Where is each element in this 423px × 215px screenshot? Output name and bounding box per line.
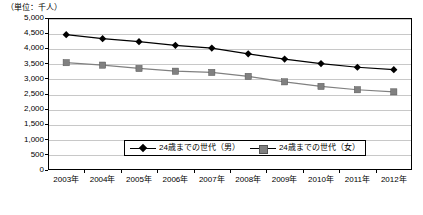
y-axis-tick-mark xyxy=(45,48,48,49)
data-point-marker xyxy=(318,83,324,89)
x-axis-tick-mark xyxy=(194,170,195,173)
unit-label: （単位：千人） xyxy=(6,3,62,13)
chart-legend: 24歳までの世代（男） 24歳までの世代（女） xyxy=(124,140,366,156)
x-axis-tick-label: 2004年 xyxy=(90,175,116,185)
x-axis-tick-mark xyxy=(339,170,340,173)
y-axis-tick-label: 500 xyxy=(0,151,44,159)
data-point-marker xyxy=(100,62,106,68)
y-axis-tick-mark xyxy=(45,109,48,110)
x-axis-tick-mark xyxy=(230,170,231,173)
x-axis-tick-label: 2012年 xyxy=(381,175,407,185)
data-point-marker xyxy=(354,64,361,71)
y-axis-tick-mark xyxy=(45,139,48,140)
series-line-female xyxy=(66,63,394,92)
y-axis-tick-label: 4,500 xyxy=(0,29,44,37)
data-point-marker xyxy=(354,87,360,93)
data-point-marker xyxy=(281,55,288,62)
y-axis-tick-mark xyxy=(45,94,48,95)
y-axis-tick-mark xyxy=(45,124,48,125)
y-axis-tick-mark xyxy=(45,63,48,64)
y-axis-tick-label: 1,000 xyxy=(0,136,44,144)
data-point-marker xyxy=(172,68,178,74)
y-axis-tick-label: 2,500 xyxy=(0,90,44,98)
y-axis-tick-label: 3,500 xyxy=(0,60,44,68)
data-point-marker xyxy=(99,35,106,42)
data-point-marker xyxy=(390,66,397,73)
data-point-marker xyxy=(209,69,215,75)
data-point-marker xyxy=(172,42,179,49)
x-axis-tick-label: 2007年 xyxy=(199,175,225,185)
x-axis-tick-mark xyxy=(376,170,377,173)
chart-container: （単位：千人） 24歳までの世代（男） 24歳までの世代（女） 05001,00… xyxy=(0,0,423,215)
y-axis-tick-label: 2,000 xyxy=(0,105,44,113)
x-axis-tick-mark xyxy=(266,170,267,173)
data-point-marker xyxy=(391,89,397,95)
diamond-marker-icon xyxy=(139,144,147,152)
legend-label-male: 24歳までの世代（男） xyxy=(159,143,240,153)
x-axis-tick-label: 2006年 xyxy=(162,175,188,185)
x-axis-tick-label: 2011年 xyxy=(345,175,370,185)
x-axis-tick-mark xyxy=(121,170,122,173)
data-point-marker xyxy=(63,31,70,38)
data-point-marker xyxy=(135,38,142,45)
data-point-marker xyxy=(136,65,142,71)
x-axis-tick-label: 2005年 xyxy=(126,175,152,185)
y-axis-tick-mark xyxy=(45,154,48,155)
x-axis-tick-label: 2010年 xyxy=(308,175,334,185)
y-axis-tick-label: 0 xyxy=(0,166,44,174)
y-axis-tick-mark xyxy=(45,78,48,79)
y-axis-tick-mark xyxy=(45,170,48,171)
legend-label-female: 24歳までの世代（女） xyxy=(279,143,360,153)
x-axis-tick-label: 2009年 xyxy=(272,175,298,185)
y-axis-tick-label: 5,000 xyxy=(0,14,44,22)
legend-line-male-icon xyxy=(130,144,156,152)
data-point-marker xyxy=(245,50,252,57)
x-axis-tick-mark xyxy=(84,170,85,173)
y-axis-tick-mark xyxy=(45,33,48,34)
x-axis-tick-label: 2003年 xyxy=(53,175,79,185)
series-line-male xyxy=(66,35,394,70)
legend-entry-male: 24歳までの世代（男） xyxy=(130,143,240,153)
y-axis-tick-label: 4,000 xyxy=(0,44,44,52)
legend-entry-female: 24歳までの世代（女） xyxy=(250,143,360,153)
y-axis-tick-label: 1,500 xyxy=(0,120,44,128)
x-axis-tick-mark xyxy=(157,170,158,173)
data-point-marker xyxy=(317,60,324,67)
data-point-marker xyxy=(208,44,215,51)
data-point-marker xyxy=(282,79,288,85)
y-axis-tick-mark xyxy=(45,18,48,19)
x-axis-tick-mark xyxy=(303,170,304,173)
y-axis-tick-label: 3,000 xyxy=(0,75,44,83)
square-marker-icon xyxy=(259,145,268,154)
legend-line-female-icon xyxy=(250,144,276,152)
data-point-marker xyxy=(245,73,251,79)
x-axis-tick-label: 2008年 xyxy=(235,175,261,185)
data-point-marker xyxy=(63,60,69,66)
